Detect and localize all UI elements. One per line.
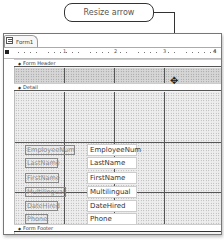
section-marker-icon: ◆ — [18, 226, 21, 231]
textbox-firstname[interactable]: FirstName — [87, 172, 137, 184]
textbox-multilingual[interactable]: Multilingual — [87, 186, 137, 198]
tab-label: Form1 — [16, 39, 33, 45]
detail-bar[interactable]: ◆ Detail — [14, 83, 221, 91]
section-marker-icon: ◆ — [18, 61, 21, 66]
form-header-section[interactable] — [15, 68, 221, 83]
detail-label: Detail — [23, 84, 38, 90]
label-multilingual[interactable]: Multilingual — [25, 187, 66, 197]
horizontal-ruler[interactable] — [4, 48, 221, 59]
section-marker-icon: ◆ — [18, 85, 21, 90]
resize-arrow-icon[interactable]: ✥ — [170, 76, 178, 86]
label-lastname[interactable]: LastName — [25, 158, 58, 168]
form-selector-icon[interactable] — [5, 50, 9, 54]
callout-label: Resize arrow — [84, 8, 135, 17]
label-employeenum[interactable]: EmployeeNum — [25, 145, 75, 155]
label-firstname[interactable]: FirstName — [25, 173, 59, 183]
resize-arrow-callout: Resize arrow — [64, 3, 154, 22]
form-header-bar[interactable]: ◆ Form Header — [14, 59, 221, 67]
label-phone[interactable]: Phone — [25, 214, 48, 224]
textbox-employeenum[interactable]: EmployeeNum — [87, 144, 137, 156]
ruler-number: 2 — [114, 48, 117, 54]
form-icon — [6, 37, 13, 44]
ruler-number: 3 — [163, 48, 166, 54]
textbox-lastname[interactable]: LastName — [87, 157, 137, 169]
form-footer-bar[interactable]: ◆ Form Footer — [14, 224, 221, 232]
callout-line — [154, 12, 175, 13]
ruler-number: 1 — [63, 48, 66, 54]
form-header-label: Form Header — [23, 60, 55, 66]
label-datehired[interactable]: DateHired — [25, 201, 58, 211]
form-footer-label: Form Footer — [23, 225, 53, 231]
ruler-number: 4 — [213, 48, 216, 54]
textbox-datehired[interactable]: DateHired — [87, 200, 137, 212]
